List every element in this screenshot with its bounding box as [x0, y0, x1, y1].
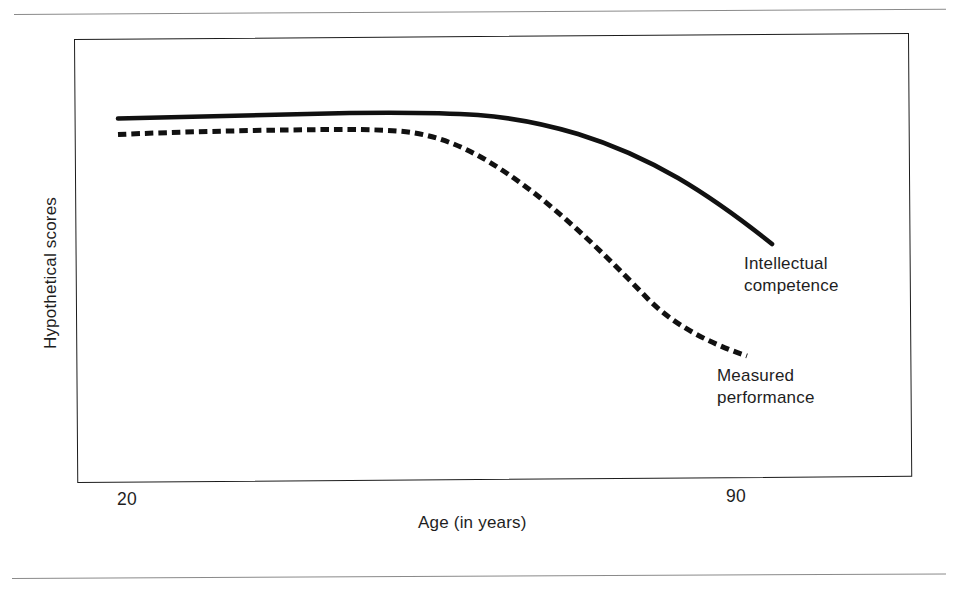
series-label-measured-performance: Measured performance: [717, 365, 815, 409]
series-label-measured-line2: performance: [717, 387, 815, 409]
x-tick-label-max: 90: [726, 486, 746, 507]
series-label-intellectual-line2: competence: [744, 275, 839, 297]
series-label-measured-line1: Measured: [717, 365, 815, 387]
x-axis-title: Age (in years): [418, 513, 527, 533]
x-tick-label-min: 20: [117, 489, 137, 510]
y-axis-title: Hypothetical scores: [41, 163, 61, 383]
figure-container: Hypothetical scores Age (in years) 20 90…: [0, 0, 954, 590]
series-label-intellectual-competence: Intellectual competence: [744, 253, 839, 297]
series-label-intellectual-line1: Intellectual: [744, 253, 839, 275]
